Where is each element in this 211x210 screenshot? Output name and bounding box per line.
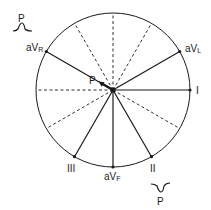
label-lead-aVL: aVL — [185, 43, 201, 54]
p-vector-label: P — [89, 75, 96, 86]
p-vector-arrow — [99, 82, 114, 91]
lead-axes — [46, 52, 190, 168]
endpoint-III — [73, 155, 76, 158]
inverted-p-wave: P — [151, 183, 170, 207]
lead-axis-aVL — [113, 52, 180, 91]
label-lead-II: II — [150, 163, 156, 174]
endpoint-aVF — [111, 165, 114, 168]
lead-endpoints — [45, 50, 192, 169]
label-lead-aVR: aVR — [26, 42, 43, 53]
inverted-p-wave-icon — [151, 183, 170, 192]
upright-p-wave: P — [13, 13, 32, 31]
lead-axis-III — [75, 90, 114, 157]
dashed-axes — [36, 13, 180, 129]
label-lead-I: I — [196, 85, 199, 96]
dashed-axis-lower-right — [113, 90, 180, 129]
hexaxial-diagram: P I aVL aVR II III aVF P P — [0, 0, 211, 210]
label-lead-aVF: aVF — [104, 171, 121, 182]
upright-p-wave-label: P — [18, 13, 25, 24]
inverted-p-wave-label: P — [157, 196, 164, 207]
endpoint-aVR — [45, 50, 48, 53]
upright-p-wave-icon — [13, 23, 32, 31]
endpoint-I — [188, 88, 191, 91]
endpoint-aVL — [178, 50, 181, 53]
label-lead-III: III — [67, 163, 75, 174]
lead-axis-II — [113, 90, 152, 157]
dashed-axis-lower-left — [46, 90, 113, 129]
endpoint-II — [150, 155, 153, 158]
dashed-axis-upper-right — [113, 23, 152, 90]
